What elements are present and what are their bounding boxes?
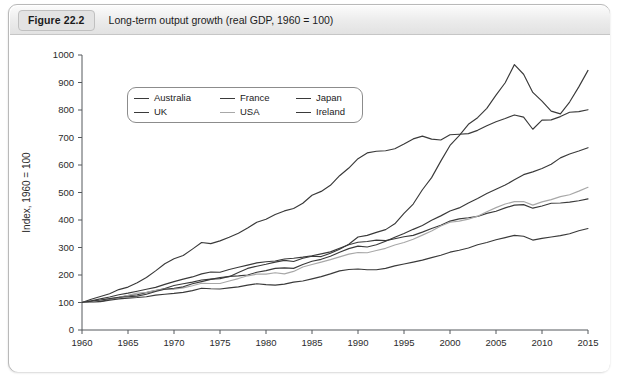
x-tick-label: 1965 bbox=[117, 337, 138, 348]
x-tick-label: 1975 bbox=[209, 337, 230, 348]
legend-row-bottom: UK USA Ireland bbox=[134, 105, 356, 119]
y-tick-label: 900 bbox=[58, 77, 74, 88]
y-tick-label: 100 bbox=[58, 297, 74, 308]
x-tick-label: 2015 bbox=[577, 337, 598, 348]
chart-legend: Australia France Japan UK USA bbox=[127, 87, 363, 123]
x-tick-label: 1985 bbox=[301, 337, 322, 348]
figure-title: Long-term output growth (real GDP, 1960 … bbox=[109, 14, 334, 26]
y-tick-label: 600 bbox=[58, 159, 74, 170]
figure-number-badge: Figure 22.2 bbox=[18, 10, 95, 31]
legend-label-france: France bbox=[240, 91, 270, 105]
x-tick-label: 1990 bbox=[347, 337, 368, 348]
legend-swatch-usa bbox=[220, 112, 235, 113]
y-tick-label: 0 bbox=[69, 324, 74, 335]
legend-label-ireland: Ireland bbox=[316, 105, 345, 119]
legend-swatch-france bbox=[220, 98, 235, 99]
x-tick-label: 1980 bbox=[255, 337, 276, 348]
legend-item-uk: UK bbox=[134, 105, 220, 119]
x-tick-label: 1970 bbox=[163, 337, 184, 348]
x-tick-label: 2000 bbox=[439, 337, 460, 348]
legend-row-top: Australia France Japan bbox=[134, 91, 356, 105]
x-tick-label: 2005 bbox=[485, 337, 506, 348]
legend-swatch-japan bbox=[296, 98, 311, 99]
x-tick-label: 1960 bbox=[71, 337, 92, 348]
y-tick-label: 500 bbox=[58, 187, 74, 198]
legend-item-ireland: Ireland bbox=[296, 105, 354, 119]
series-line-usa bbox=[82, 187, 588, 302]
legend-item-australia: Australia bbox=[134, 91, 220, 105]
legend-item-usa: USA bbox=[220, 105, 296, 119]
y-tick-label: 1000 bbox=[53, 49, 74, 60]
y-tick-label: 700 bbox=[58, 132, 74, 143]
legend-swatch-australia bbox=[134, 98, 149, 99]
figure-panel: Figure 22.2 Long-term output growth (rea… bbox=[8, 4, 610, 372]
legend-label-uk: UK bbox=[154, 105, 167, 119]
y-tick-label: 200 bbox=[58, 269, 74, 280]
legend-swatch-ireland bbox=[296, 112, 311, 113]
y-tick-label: 300 bbox=[58, 242, 74, 253]
y-tick-label: 400 bbox=[58, 214, 74, 225]
figure-header: Figure 22.2 Long-term output growth (rea… bbox=[10, 6, 610, 35]
legend-label-usa: USA bbox=[240, 105, 260, 119]
plot-area: 0100200300400500600700800900100019601965… bbox=[10, 35, 610, 372]
x-tick-label: 2010 bbox=[531, 337, 552, 348]
legend-swatch-uk bbox=[134, 112, 149, 113]
line-chart: 0100200300400500600700800900100019601965… bbox=[10, 35, 610, 372]
y-tick-label: 800 bbox=[58, 104, 74, 115]
legend-label-australia: Australia bbox=[154, 91, 191, 105]
series-line-australia bbox=[82, 148, 588, 303]
y-axis-title: Index, 1960 = 100 bbox=[21, 152, 32, 233]
x-tick-label: 1995 bbox=[393, 337, 414, 348]
legend-item-france: France bbox=[220, 91, 296, 105]
legend-label-japan: Japan bbox=[316, 91, 342, 105]
legend-item-japan: Japan bbox=[296, 91, 354, 105]
